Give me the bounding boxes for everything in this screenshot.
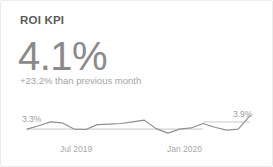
x-axis-tick-jul-2019: Jul 2019 [60,144,92,155]
chart-data-line [27,116,250,133]
roi-kpi-card: ROI KPI 4.1% +23.2% than previous month … [0,0,273,167]
sparkline-chart [1,101,273,146]
sparkline-svg [1,101,273,146]
kpi-delta-text: +23.2% than previous month [20,75,141,87]
chart-x-axis: Jul 2019 Jan 2020 [1,144,273,160]
page-title: ROI KPI [20,13,64,27]
kpi-primary-value: 4.1% [18,34,107,78]
x-axis-tick-jan-2020: Jan 2020 [167,144,202,155]
